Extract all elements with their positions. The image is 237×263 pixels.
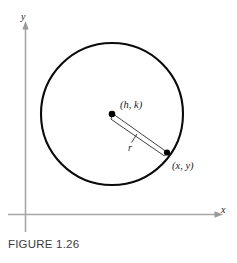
circle-point-dot (164, 149, 170, 155)
radius-label: r (128, 143, 132, 153)
radius-wedge (111, 114, 168, 157)
x-axis-label: x (221, 205, 225, 215)
figure-drawing-canvas (0, 0, 237, 263)
point-coordinate-label: (x, y) (172, 161, 194, 172)
x-axis (8, 211, 223, 217)
y-axis-label: y (21, 12, 25, 22)
figure-caption: FIGURE 1.26 (8, 238, 79, 250)
y-axis-arrowhead (22, 21, 28, 30)
figure-container: y x (h, k) (x, y) r FIGURE 1.26 (0, 0, 237, 263)
y-axis (22, 21, 28, 232)
center-coordinate-label: (h, k) (120, 100, 142, 111)
center-point-dot (109, 111, 116, 118)
